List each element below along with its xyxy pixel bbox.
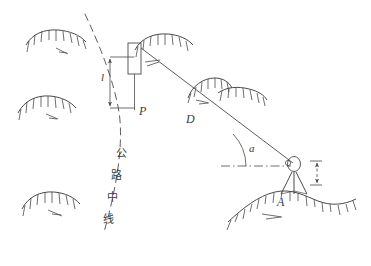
slope-hatch-mid-left bbox=[18, 96, 76, 120]
highway-centerline-curve bbox=[85, 14, 121, 232]
slope-hatch-center-right bbox=[218, 87, 267, 106]
instrument-height-dimension bbox=[310, 161, 322, 185]
slope-hatch-top-left bbox=[26, 30, 86, 54]
target-staff-box bbox=[128, 43, 141, 110]
ground-slope-profile bbox=[227, 191, 356, 230]
surveying-diagram: l P D a A 公 路 中 线 bbox=[0, 0, 371, 266]
diagram-canvas bbox=[0, 0, 371, 266]
slope-hatch-bottom-left bbox=[22, 192, 80, 216]
sight-line-D bbox=[141, 48, 293, 163]
vertical-angle-arc bbox=[233, 134, 246, 166]
offset-dimension-line bbox=[110, 57, 135, 108]
